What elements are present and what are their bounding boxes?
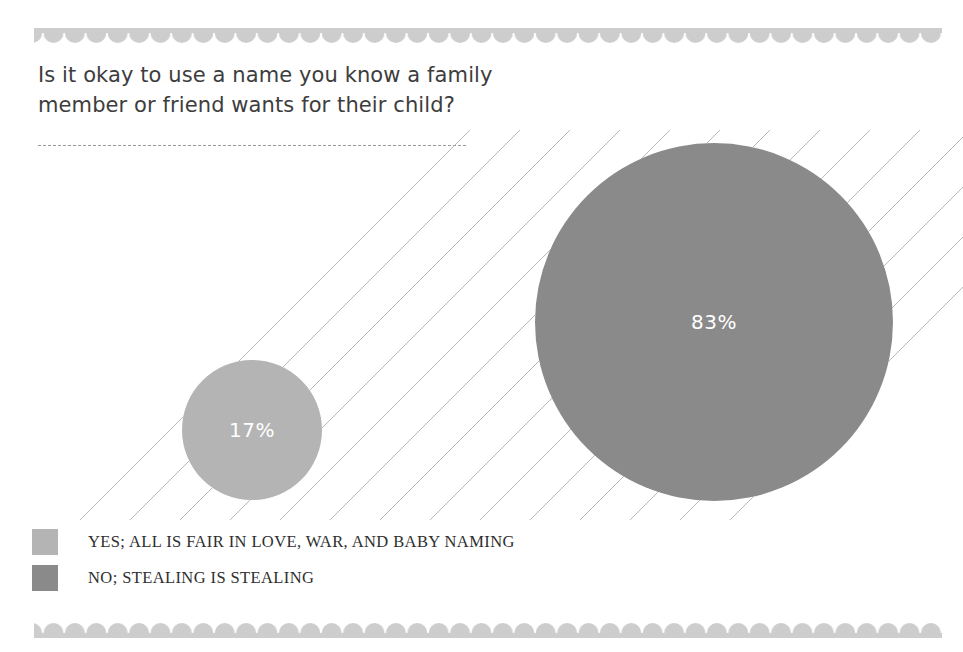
bubble-yes[interactable]: 17%: [182, 360, 322, 500]
legend-item-yes[interactable]: YES; ALL IS FAIR IN LOVE, WAR, AND BABY …: [32, 524, 632, 560]
bubble-yes-value: 17%: [229, 418, 275, 442]
legend-item-no[interactable]: NO; STEALING IS STEALING: [32, 560, 632, 596]
scallop-border-top-icon: [0, 28, 963, 52]
legend-label-no: NO; STEALING IS STEALING: [88, 568, 314, 588]
legend: YES; ALL IS FAIR IN LOVE, WAR, AND BABY …: [32, 524, 632, 596]
bubble-no-value: 83%: [691, 310, 737, 334]
legend-swatch-yes: [32, 529, 58, 555]
infographic-page: Is it okay to use a name you know a fami…: [0, 0, 963, 652]
legend-label-yes: YES; ALL IS FAIR IN LOVE, WAR, AND BABY …: [88, 532, 515, 552]
scallop-border-bottom-icon: [0, 614, 963, 638]
bubble-chart: 17% 83%: [0, 130, 963, 520]
bubble-no[interactable]: 83%: [535, 143, 893, 501]
page-title: Is it okay to use a name you know a fami…: [38, 60, 508, 120]
legend-swatch-no: [32, 565, 58, 591]
